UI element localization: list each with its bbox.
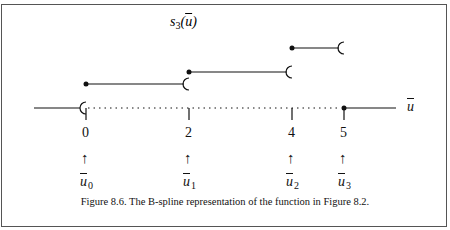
up-arrow-icon: ↑ [339, 150, 347, 167]
up-arrow-icon: ↑ [81, 150, 89, 167]
tick-label-4: 4 [288, 125, 295, 141]
knot-label-u3: u3 [338, 172, 351, 191]
knot-label-u2: u2 [286, 172, 299, 191]
knot-label-u0: u0 [80, 172, 93, 191]
up-arrow-icon: ↑ [287, 150, 295, 167]
knot-label-u1: u1 [183, 172, 196, 191]
axis-label: u [407, 99, 414, 115]
tick-label-0: 0 [82, 125, 89, 141]
up-arrow-icon: ↑ [184, 150, 192, 167]
tick-label-5: 5 [340, 125, 347, 141]
figure-caption: Figure 8.6. The B-spline representation … [0, 196, 450, 207]
tick-label-2: 2 [185, 125, 192, 141]
